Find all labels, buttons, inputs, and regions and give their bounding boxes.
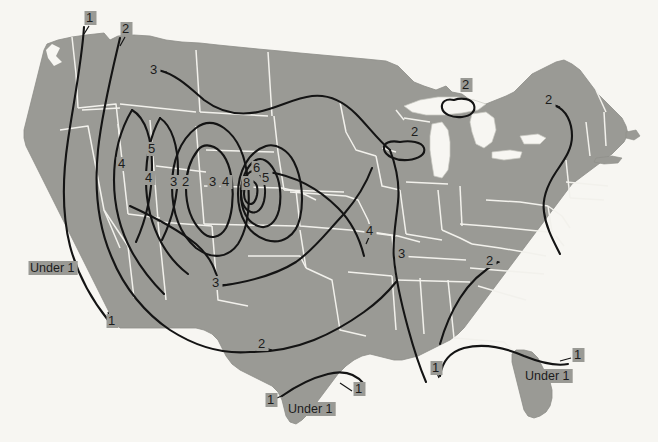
contour-label-core-3a: 3 <box>170 174 177 189</box>
contour-label-sw-3: 3 <box>212 275 219 290</box>
contour-label-west-4b: 4 <box>145 170 152 185</box>
contour-map-figure: 123454323486543321Under 11Under 1111Unde… <box>0 0 658 442</box>
lake-michigan <box>430 122 450 178</box>
contour-label-se-1: 1 <box>574 347 581 362</box>
contour-label-cal-under1: Under 1 <box>30 261 75 275</box>
contour-label-gl-2b: 2 <box>411 124 418 139</box>
contour-label-tx-under1: Under 1 <box>288 402 333 416</box>
contour-label-plains-3: 3 <box>398 246 405 261</box>
contour-label-tx-1b: 1 <box>355 381 362 396</box>
contour-label-core-5: 5 <box>262 170 269 185</box>
contour-label-gulf-1: 1 <box>432 360 439 375</box>
contour-label-core-2: 2 <box>182 174 189 189</box>
contour-label-sw-2: 2 <box>258 336 265 351</box>
contour-label-west-4: 4 <box>118 156 125 171</box>
contour-label-se-2: 2 <box>486 253 493 268</box>
contour-label-nw-2: 2 <box>122 21 129 36</box>
contour-label-core-4: 4 <box>222 174 229 189</box>
contour-label-fl-under1: Under 1 <box>525 369 570 383</box>
map-canvas: 123454323486543321Under 11Under 1111Unde… <box>0 0 658 442</box>
contour-label-tx-1a: 1 <box>267 392 274 407</box>
contour-label-ne-2: 2 <box>545 92 552 107</box>
contour-label-nw-1: 1 <box>86 10 93 25</box>
contour-label-cal-1: 1 <box>108 313 115 328</box>
contour-label-core-6: 6 <box>253 160 260 175</box>
lake-erie <box>492 150 522 160</box>
clipped-caption <box>0 0 658 5</box>
contour-label-north-3: 3 <box>150 62 157 77</box>
contour-label-core-8: 8 <box>243 175 250 190</box>
contour-label-core-3b: 3 <box>209 174 216 189</box>
contour-label-west-5: 5 <box>148 141 155 156</box>
contour-label-plains-4: 4 <box>366 223 373 238</box>
contour-label-gl-2a: 2 <box>462 77 469 92</box>
